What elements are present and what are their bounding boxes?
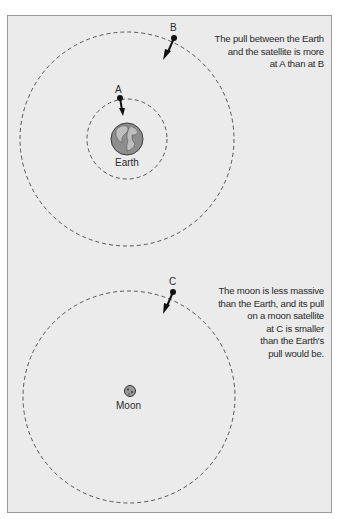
moon-caption-line: than the Earth's [218,335,324,348]
satellite-c [163,289,176,314]
moon-caption-line: than the Earth, and its pull [218,298,324,311]
moon-caption-line: on a moon satellite [218,310,324,323]
moon-orbit [23,291,235,503]
earth-caption: The pull between the Earth and the satel… [215,33,324,71]
moon-caption: The moon is less massive than the Earth,… [218,285,324,360]
moon-caption-line: The moon is less massive [218,285,324,298]
moon-caption-line: pull would be. [218,348,324,361]
orbit-diagram [0,0,342,519]
point-a-label: A [115,84,122,95]
point-b-label: B [170,22,177,33]
moon-caption-line: at C is smaller [218,323,324,336]
satellite-a [117,95,125,116]
earth-caption-line: at A than at B [215,58,324,71]
earth-caption-line: The pull between the Earth [215,33,324,46]
moon-label: Moon [116,400,141,411]
earth-icon [111,123,143,155]
moon-icon [125,386,136,397]
earth-label: Earth [115,157,139,168]
point-c-label: C [169,276,176,287]
earth-caption-line: and the satellite is more [215,46,324,59]
